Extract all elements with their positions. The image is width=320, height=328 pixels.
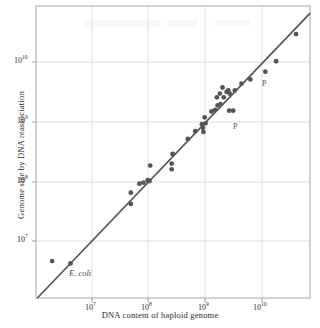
data-point: [218, 102, 223, 107]
data-point: [148, 163, 153, 168]
data-point: [213, 107, 218, 112]
data-point: [141, 180, 146, 185]
data-point: [50, 259, 55, 264]
data-point: [68, 261, 73, 266]
data-point: [185, 137, 190, 142]
point-annotation-e-coli: E. coli: [69, 268, 91, 278]
data-point: [214, 95, 219, 100]
point-annotation-p: P: [233, 122, 237, 131]
data-point: [263, 69, 268, 74]
y-axis-title: Genome size by DNA reassociation: [16, 70, 26, 240]
data-point: [193, 129, 198, 134]
data-point: [220, 85, 225, 90]
data-point: [221, 95, 226, 100]
data-point: [231, 108, 236, 113]
data-point: [227, 91, 232, 96]
data-point: [137, 181, 142, 186]
data-point: [202, 115, 207, 120]
data-point: [232, 88, 237, 93]
data-point: [294, 32, 299, 37]
x-axis-title: DNA content of haploid genome: [0, 310, 320, 320]
data-point-group: [50, 32, 299, 266]
plot-canvas: [0, 0, 320, 328]
data-point: [147, 179, 152, 184]
data-point: [203, 121, 208, 126]
data-point: [239, 81, 244, 86]
scatter-plot-figure: 1010 109 108 107 107 108 109 1010 DNA co…: [0, 0, 320, 328]
data-point: [274, 59, 279, 64]
data-point: [200, 125, 205, 130]
data-point: [128, 190, 133, 195]
data-point: [169, 161, 174, 166]
ytick-label-1e10: 1010: [14, 56, 28, 65]
data-point: [248, 77, 253, 82]
data-point: [170, 152, 175, 157]
data-point: [169, 167, 174, 172]
data-point: [128, 202, 133, 207]
data-point: [217, 91, 222, 96]
point-annotation-p: P: [262, 79, 266, 88]
data-point: [201, 130, 206, 135]
